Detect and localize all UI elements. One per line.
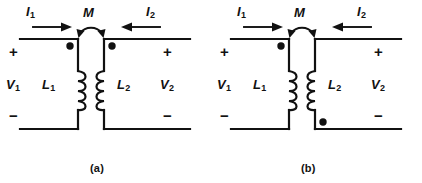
voltage-label-v1: V1 bbox=[217, 78, 231, 93]
polarity-minus-left: − bbox=[9, 108, 18, 123]
mutual-inductance-label: M bbox=[294, 6, 305, 19]
dot-convention-primary bbox=[66, 42, 73, 49]
polarity-minus-left: − bbox=[220, 108, 229, 123]
current-arrowhead-right bbox=[332, 23, 343, 32]
circuit-panel-b: I1 I2 M + − + − V1 L1 L2 V2 (b) bbox=[211, 0, 422, 183]
circuit-schematic-a bbox=[0, 0, 211, 183]
inductor-coil-left bbox=[289, 71, 297, 110]
polarity-minus-right: − bbox=[374, 108, 383, 123]
voltage-label-v2: V2 bbox=[371, 78, 385, 93]
dot-convention-secondary bbox=[319, 118, 326, 125]
inductor-coil-right bbox=[97, 71, 105, 110]
panel-caption-a: (a) bbox=[90, 163, 104, 174]
inductor-label-l2: L2 bbox=[328, 78, 341, 93]
polarity-minus-right: − bbox=[163, 108, 172, 123]
circuit-panel-a: I1 I2 M + − + − V1 L1 L2 V2 (a) bbox=[0, 0, 211, 183]
inductor-coil-right bbox=[308, 71, 316, 110]
figure-root: I1 I2 M + − + − V1 L1 L2 V2 (a) bbox=[0, 0, 422, 183]
circuit-schematic-b bbox=[211, 0, 422, 183]
current-label-i1: I1 bbox=[26, 5, 35, 20]
polarity-plus-right: + bbox=[163, 44, 172, 59]
inductor-label-l1: L1 bbox=[253, 78, 266, 93]
current-label-i2: I2 bbox=[146, 5, 155, 20]
voltage-label-v1: V1 bbox=[6, 78, 20, 93]
inductor-label-l1: L1 bbox=[42, 78, 55, 93]
inductor-coil-left bbox=[78, 71, 86, 110]
current-arrowhead-left bbox=[61, 23, 72, 32]
current-label-i2: I2 bbox=[357, 5, 366, 20]
polarity-plus-left: + bbox=[9, 44, 18, 59]
mutual-inductance-label: M bbox=[83, 6, 94, 19]
panel-caption-b: (b) bbox=[301, 163, 316, 174]
voltage-label-v2: V2 bbox=[160, 78, 174, 93]
dot-convention-secondary bbox=[108, 42, 115, 49]
current-arrowhead-right bbox=[121, 23, 132, 32]
polarity-plus-left: + bbox=[220, 44, 229, 59]
polarity-plus-right: + bbox=[374, 44, 383, 59]
inductor-label-l2: L2 bbox=[117, 78, 130, 93]
current-label-i1: I1 bbox=[237, 5, 246, 20]
current-arrowhead-left bbox=[272, 23, 283, 32]
dot-convention-primary bbox=[277, 42, 284, 49]
